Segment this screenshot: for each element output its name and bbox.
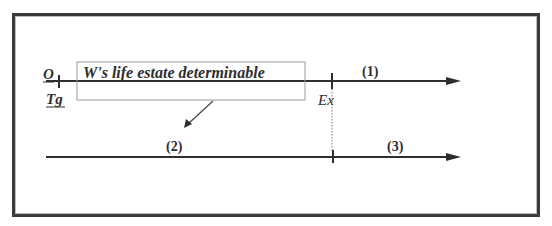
segment-3-label: (3) — [387, 139, 404, 155]
grantee-label: Tg — [46, 91, 63, 107]
owner-label: O — [43, 66, 54, 82]
diagonal-arrowhead-icon — [184, 119, 192, 128]
timeline-diagram: O Tg W's life estate determinable Ex (1)… — [0, 0, 552, 226]
segment-2-label: (2) — [166, 139, 183, 155]
event-label: Ex — [317, 92, 334, 108]
diagonal-arrow-line — [188, 101, 213, 124]
life-estate-label: W's life estate determinable — [83, 64, 265, 82]
arrowhead-top-icon — [446, 77, 461, 85]
arrowhead-bottom-icon — [446, 153, 461, 161]
segment-1-label: (1) — [362, 64, 379, 80]
